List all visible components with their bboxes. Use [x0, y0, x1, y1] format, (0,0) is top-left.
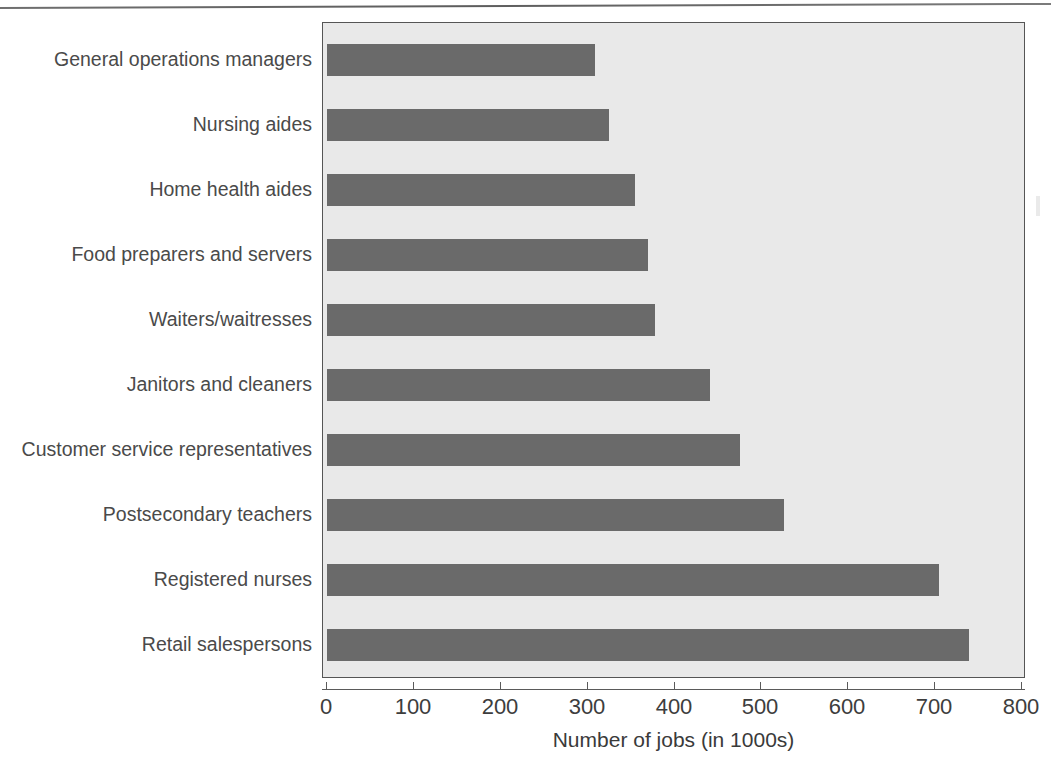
bar	[327, 239, 648, 271]
x-axis-tick-label: 500	[742, 694, 779, 720]
bar	[327, 44, 595, 76]
category-label: Waiters/waitresses	[0, 308, 318, 330]
category-label: Registered nurses	[0, 568, 318, 590]
x-axis-tick	[847, 682, 848, 690]
x-axis-tick	[674, 682, 675, 690]
category-label: General operations managers	[0, 48, 318, 70]
category-label: Postsecondary teachers	[0, 503, 318, 525]
plot-area	[322, 22, 1025, 678]
bar	[327, 174, 635, 206]
x-axis-tick	[760, 682, 761, 690]
x-axis-tick	[934, 682, 935, 690]
x-axis-tick-label: 600	[829, 694, 866, 720]
chart-page: General operations managersNursing aides…	[0, 0, 1051, 766]
bar	[327, 629, 969, 661]
category-label: Janitors and cleaners	[0, 373, 318, 395]
bar	[327, 109, 609, 141]
bar	[327, 304, 655, 336]
category-label: Retail salespersons	[0, 633, 318, 655]
bar	[327, 369, 710, 401]
x-axis-title: Number of jobs (in 1000s)	[322, 727, 1025, 753]
x-axis-tick	[326, 682, 327, 690]
bar	[327, 434, 740, 466]
category-label: Nursing aides	[0, 113, 318, 135]
bar	[327, 499, 784, 531]
x-axis-tick	[1021, 682, 1022, 690]
category-label: Food preparers and servers	[0, 243, 318, 265]
x-axis-tick	[500, 682, 501, 690]
category-label: Home health aides	[0, 178, 318, 200]
x-axis-tick-label: 200	[482, 694, 519, 720]
x-axis-tick	[587, 682, 588, 690]
x-axis-tick-label: 300	[569, 694, 606, 720]
x-axis-tick-label: 100	[395, 694, 432, 720]
x-axis-tick-label: 400	[656, 694, 693, 720]
bar	[327, 564, 939, 596]
x-axis-tick-label: 800	[1003, 694, 1040, 720]
x-axis-tick-label: 0	[320, 694, 332, 720]
horizontal-bar-chart: General operations managersNursing aides…	[0, 0, 1051, 766]
x-axis-tick	[413, 682, 414, 690]
category-axis-labels: General operations managersNursing aides…	[0, 22, 318, 678]
scan-artifact	[1036, 196, 1040, 216]
category-label: Customer service representatives	[0, 438, 318, 460]
x-axis-tick-label: 700	[916, 694, 953, 720]
